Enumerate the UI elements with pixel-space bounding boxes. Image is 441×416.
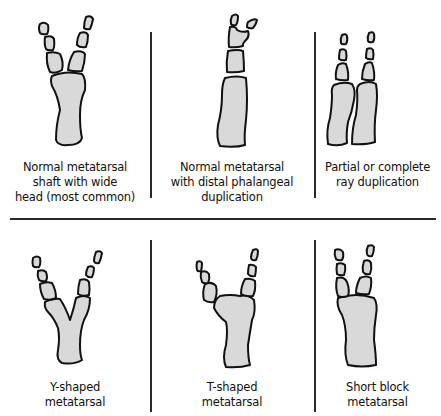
- panel-ray-duplication: Partial or complete ray duplication: [314, 0, 441, 215]
- caption-line: Normal metatarsal: [150, 160, 314, 175]
- caption-line: ray duplication: [314, 175, 441, 190]
- caption-line: metatarsal: [0, 395, 150, 410]
- caption-line: duplication: [150, 190, 314, 205]
- caption-line: head (most common): [0, 190, 150, 205]
- panel-short-block: Short block metatarsal: [314, 220, 441, 416]
- caption-line: T-shaped: [150, 380, 314, 395]
- caption-line: shaft with wide: [0, 175, 150, 190]
- panel-y-shaped: Y-shaped metatarsal: [0, 220, 150, 416]
- panel-phalangeal-duplication: Normal metatarsal with distal phalangeal…: [150, 0, 314, 215]
- caption-line: Normal metatarsal: [0, 160, 150, 175]
- caption: T-shaped metatarsal: [150, 380, 314, 410]
- caption-line: Short block: [314, 380, 441, 395]
- caption-line: metatarsal: [150, 395, 314, 410]
- caption-line: with distal phalangeal: [150, 175, 314, 190]
- caption-line: Y-shaped: [0, 380, 150, 395]
- caption: Normal metatarsal shaft with wide head (…: [0, 160, 150, 205]
- panel-t-shaped: T-shaped metatarsal: [150, 220, 314, 416]
- caption-line: metatarsal: [314, 395, 441, 410]
- caption: Y-shaped metatarsal: [0, 380, 150, 410]
- caption: Normal metatarsal with distal phalangeal…: [150, 160, 314, 205]
- caption-line: Partial or complete: [314, 160, 441, 175]
- caption: Partial or complete ray duplication: [314, 160, 441, 190]
- panel-wide-head: Normal metatarsal shaft with wide head (…: [0, 0, 150, 215]
- caption: Short block metatarsal: [314, 380, 441, 410]
